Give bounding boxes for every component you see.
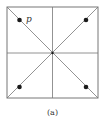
point-label-p: p xyxy=(26,14,32,24)
point-bottom-left xyxy=(17,85,22,90)
figure-caption: (a) xyxy=(0,108,105,117)
point-bottom-right xyxy=(84,85,89,90)
center-point xyxy=(51,52,53,54)
square-diagram: p xyxy=(0,0,110,122)
point-top-right xyxy=(84,18,89,23)
point-top-left xyxy=(17,18,22,23)
